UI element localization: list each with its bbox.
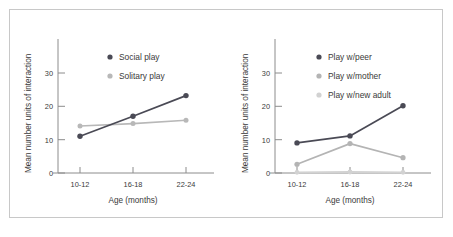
x-tick-label-2: 16-18 (124, 180, 143, 189)
y-tick-label-30: 30 (45, 69, 53, 78)
series-social-play (77, 93, 188, 139)
legend-left: Social play Solitary play (107, 52, 165, 81)
series-play-w-mother (294, 141, 405, 167)
chart-panel-left: Mean number units of interaction 0 10 20… (9, 9, 226, 218)
y-ticks-left: 0 10 20 30 (45, 69, 65, 178)
y-tick-label-20: 20 (45, 102, 53, 111)
x-tick-label-2: 16-18 (341, 180, 360, 189)
y-axis-label-right: Mean number units of interaction (241, 53, 250, 173)
legend-marker-play-w-new-adult (316, 92, 321, 97)
chart-svg-left: Mean number units of interaction 0 10 20… (9, 9, 226, 218)
series-play-w-peer (294, 103, 405, 146)
x-ticks-left: 10-12 16-18 22-24 (71, 167, 196, 189)
legend-label-social-play: Social play (119, 52, 160, 62)
x-tick-label-1: 10-12 (71, 180, 90, 189)
x-axis-label-right: Age (months) (325, 196, 374, 205)
legend-marker-social-play (107, 54, 112, 59)
y-tick-label-10: 10 (45, 136, 53, 145)
y-tick-label-10: 10 (262, 136, 270, 145)
y-tick-label-30: 30 (262, 69, 270, 78)
legend-right: Play w/peer Play w/mother Play w/new adu… (316, 52, 391, 100)
y-tick-label-20: 20 (262, 102, 270, 111)
legend-marker-play-w-peer (316, 54, 321, 59)
x-tick-label-3: 22-24 (394, 180, 413, 189)
series-play-w-new-adult (295, 170, 406, 175)
legend-marker-play-w-mother (316, 73, 321, 78)
x-axis-label-left: Age (months) (108, 196, 157, 205)
legend-marker-solitary-play (107, 73, 112, 78)
series-solitary-play (78, 118, 189, 129)
chart-svg-right: Mean number units of interaction 0 10 20… (226, 9, 443, 218)
y-axis-label-left: Mean number units of interaction (24, 53, 33, 173)
y-tick-label-0: 0 (49, 169, 53, 178)
legend-label-play-w-new-adult: Play w/new adult (328, 90, 392, 100)
legend-label-play-w-peer: Play w/peer (328, 52, 372, 62)
chart-panel-right: Mean number units of interaction 0 10 20… (226, 9, 443, 218)
x-tick-label-3: 22-24 (177, 180, 196, 189)
y-tick-label-0: 0 (266, 169, 270, 178)
y-ticks-right: 0 10 20 30 (262, 69, 282, 178)
x-tick-label-1: 10-12 (288, 180, 307, 189)
legend-label-play-w-mother: Play w/mother (328, 71, 381, 81)
legend-label-solitary-play: Solitary play (119, 71, 165, 81)
figure-container: Mean number units of interaction 0 10 20… (0, 0, 453, 237)
